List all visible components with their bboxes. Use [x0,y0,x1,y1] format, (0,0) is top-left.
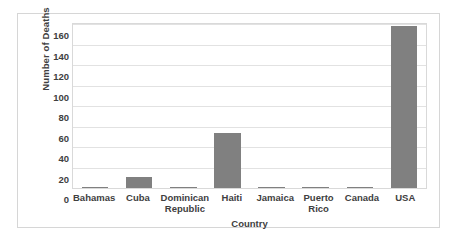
plot-area [72,23,427,189]
bar[interactable] [302,187,328,189]
bar[interactable] [170,187,196,189]
y-axis-tick-labels: 020406080100120140160 [44,29,69,195]
y-axis-tick-label: 0 [44,194,69,205]
bar-slot [294,24,338,188]
bar[interactable] [126,177,152,188]
y-axis-tick-label: 140 [44,50,69,61]
bar[interactable] [258,187,284,189]
bar-slot [117,24,161,188]
bar[interactable] [347,187,373,189]
x-axis-tick-label: Canada [340,192,383,214]
x-axis-tick-label: Haiti [210,192,253,214]
x-axis-title: Country [72,218,427,229]
chart-container: Number of Deaths 020406080100120140160 B… [17,13,440,228]
y-axis-tick-label: 80 [44,112,69,123]
y-axis-tick-label: 160 [44,30,69,41]
x-axis-tick-label: Dominican Republic [160,192,211,214]
bar-slot [382,24,426,188]
x-axis-tick-labels: BahamasCubaDominican RepublicHaitiJamaic… [72,192,427,214]
y-axis-tick-label: 60 [44,132,69,143]
bar[interactable] [391,26,417,188]
x-axis-tick-label: Puerto Rico [297,192,340,214]
y-axis-tick-label: 120 [44,71,69,82]
y-axis-tick-label: 100 [44,91,69,102]
x-axis-tick-label: Bahamas [72,192,116,214]
bar-slot [338,24,382,188]
bar[interactable] [214,133,240,188]
bar-slot [205,24,249,188]
y-axis-tick-label: 20 [44,173,69,184]
x-axis-tick-label: USA [384,192,427,214]
bar-slot [250,24,294,188]
bar-slot [161,24,205,188]
bar-series [73,24,426,188]
y-axis-tick-label: 40 [44,153,69,164]
bar[interactable] [82,187,108,189]
bar-slot [73,24,117,188]
x-axis-tick-label: Cuba [116,192,159,214]
x-axis-tick-label: Jamaica [254,192,297,214]
